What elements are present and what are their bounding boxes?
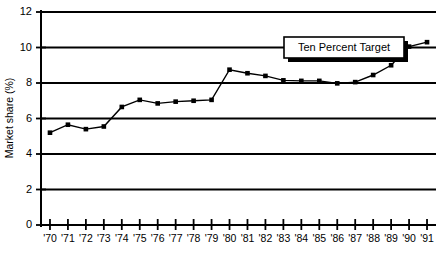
data-point-84 [299,79,304,84]
data-point-77 [173,99,178,104]
x-tick-label-11: '81 [241,232,255,244]
x-tick-label-15: '85 [312,232,326,244]
x-tick-label-1: '71 [61,232,75,244]
x-tick-label-19: '89 [384,232,398,244]
x-tick-label-8: '78 [187,232,201,244]
x-tick-label-12: '82 [259,232,273,244]
data-point-71 [66,122,71,127]
data-point-76 [155,101,160,106]
data-point-85 [317,79,322,84]
data-point-81 [245,71,250,76]
data-point-80 [227,67,232,72]
data-point-87 [353,80,358,85]
x-tick-label-16: '86 [330,232,344,244]
y-tick-label-4: 4 [26,147,32,159]
data-point-72 [84,127,89,132]
data-point-74 [120,105,125,110]
x-tick-label-group: '70'71'72'73'74'75'76'77'78'79'80'81'82'… [43,232,434,244]
x-tick-label-5: '75 [133,232,147,244]
x-tick-label-2: '72 [79,232,93,244]
chart-canvas: 024681012 '70'71'72'73'74'75'76'77'78'79… [0,0,444,263]
data-point-82 [263,74,268,79]
data-point-73 [102,124,107,129]
x-tick-label-9: '79 [205,232,219,244]
x-tick-label-13: '83 [277,232,291,244]
x-tick-label-6: '76 [151,232,165,244]
data-point-91 [425,40,430,45]
x-tick-label-4: '74 [115,232,129,244]
data-point-75 [137,98,142,103]
data-point-89 [389,63,394,68]
annotation-ten-percent-target: Ten Percent Target [284,37,408,62]
y-tick-label-group: 024681012 [20,5,32,230]
market-share-line-chart: 024681012 '70'71'72'73'74'75'76'77'78'79… [0,0,444,263]
data-point-88 [371,73,376,78]
y-axis-title: Market share (%) [3,78,15,159]
data-point-78 [191,98,196,103]
data-point-70 [48,130,53,135]
x-tick-label-20: '90 [402,232,416,244]
y-tick-label-0: 0 [26,218,32,230]
x-tick-label-14: '84 [294,232,308,244]
x-tick-label-21: '91 [420,232,434,244]
x-tick-label-10: '80 [223,232,237,244]
annotation-label: Ten Percent Target [298,41,390,53]
x-tick-label-18: '88 [366,232,380,244]
y-tick-label-8: 8 [26,76,32,88]
x-tick-label-0: '70 [43,232,57,244]
y-tick-label-12: 12 [20,5,32,17]
data-point-83 [281,78,286,83]
y-tick-label-10: 10 [20,41,32,53]
y-tick-label-6: 6 [26,112,32,124]
data-point-79 [209,98,214,103]
x-tick-label-17: '87 [348,232,362,244]
x-tick-label-3: '73 [97,232,111,244]
y-tick-label-2: 2 [26,183,32,195]
data-point-86 [335,81,340,86]
x-tick-label-7: '77 [169,232,183,244]
